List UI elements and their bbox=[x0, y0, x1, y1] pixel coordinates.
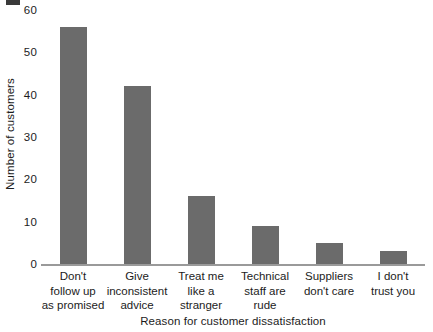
x-tick-label-line: as promised bbox=[41, 298, 105, 313]
x-tick-label: Giveinconsistentadvice bbox=[105, 269, 169, 313]
x-tick-label-line: Treat me bbox=[169, 269, 233, 284]
y-axis-title: Number of customers bbox=[2, 2, 18, 266]
x-tick-label-line: Technical bbox=[233, 269, 297, 284]
bar bbox=[188, 196, 215, 264]
y-tick-label: 10 bbox=[18, 216, 37, 228]
y-tick-label: 0 bbox=[18, 258, 37, 270]
y-tick-label: 20 bbox=[18, 173, 37, 185]
bar bbox=[60, 27, 87, 264]
x-tick-label: Don'tfollow upas promised bbox=[41, 269, 105, 313]
x-tick-label-line: Don't bbox=[41, 269, 105, 284]
x-tick-label-line: staff are bbox=[233, 284, 297, 299]
bar bbox=[380, 251, 407, 264]
x-tick-label: Treat melike astranger bbox=[169, 269, 233, 313]
x-tick-label-line: advice bbox=[105, 298, 169, 313]
y-axis-tick-labels: 0102030405060 bbox=[18, 0, 37, 332]
x-axis-line bbox=[41, 264, 425, 266]
x-tick-label-line: don't care bbox=[297, 284, 361, 299]
x-tick-label-line: I don't bbox=[361, 269, 425, 284]
x-tick-label: I don'ttrust you bbox=[361, 269, 425, 298]
x-tick-label-line: trust you bbox=[361, 284, 425, 299]
y-tick-label: 50 bbox=[18, 46, 37, 58]
x-axis-title: Reason for customer dissatisfaction bbox=[41, 315, 425, 327]
x-tick-label-line: stranger bbox=[169, 298, 233, 313]
x-tick-label-line: inconsistent bbox=[105, 284, 169, 299]
y-tick-label: 30 bbox=[18, 131, 37, 143]
x-tick-label-line: like a bbox=[169, 284, 233, 299]
bar bbox=[252, 226, 279, 264]
plot-area bbox=[41, 10, 425, 264]
x-tick-label: Suppliersdon't care bbox=[297, 269, 361, 298]
x-axis-tick-labels: Don'tfollow upas promisedGiveinconsisten… bbox=[41, 269, 425, 315]
y-tick-label: 60 bbox=[18, 4, 37, 16]
y-tick-label: 40 bbox=[18, 89, 37, 101]
bar bbox=[316, 243, 343, 264]
x-tick-label: Technicalstaff arerude bbox=[233, 269, 297, 313]
bar bbox=[124, 86, 151, 264]
bar-chart: Number of customers 0102030405060 Don'tf… bbox=[0, 0, 433, 332]
x-tick-label-line: Give bbox=[105, 269, 169, 284]
x-tick-label-line: rude bbox=[233, 298, 297, 313]
x-tick-label-line: follow up bbox=[41, 284, 105, 299]
x-tick-label-line: Suppliers bbox=[297, 269, 361, 284]
